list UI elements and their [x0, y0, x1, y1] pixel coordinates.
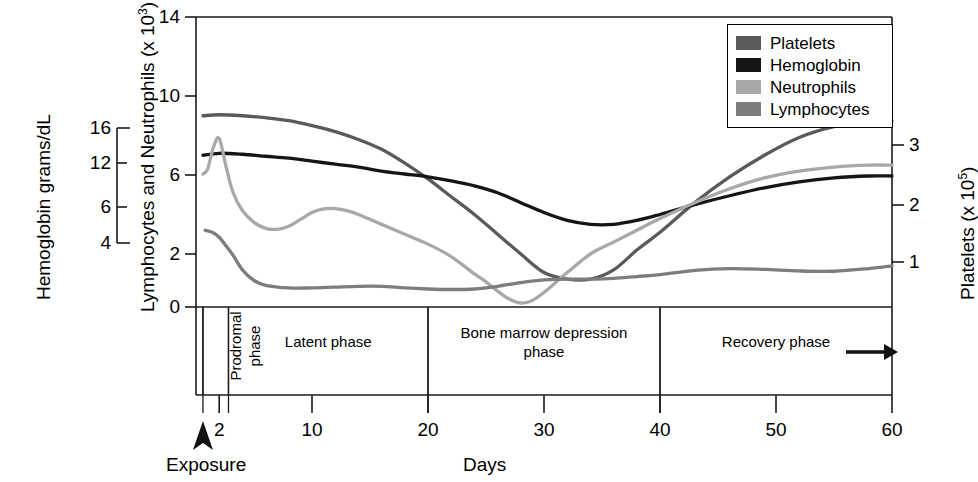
legend-swatch-platelets — [736, 36, 761, 50]
y2-tick-label-3: 3 — [909, 135, 920, 154]
legend-item-hemoglobin: Hemoglobin — [736, 54, 881, 76]
x-tick-label-30: 30 — [527, 420, 561, 439]
y2-tick-label-1: 1 — [909, 252, 920, 271]
x-tick-label-50: 50 — [759, 420, 793, 439]
y-tick-label-0: 0 — [146, 297, 180, 316]
x-tick-label-20: 20 — [411, 420, 445, 439]
y-tick-label-10: 10 — [146, 86, 180, 105]
legend-item-lymphocytes: Lymphocytes — [736, 98, 881, 120]
right-y-axis-title-close: ) — [957, 167, 978, 173]
phase-label-recovery-phase: Recovery phase — [691, 333, 861, 352]
legend-swatch-lymphocytes — [736, 102, 761, 116]
phase-label-bone-marrow-depression-phase: Bone marrow depression phase — [459, 324, 629, 362]
right-y-axis-exponent: 5 — [956, 173, 970, 180]
x-tick-label-10: 10 — [295, 420, 329, 439]
x-tick-label-40: 40 — [643, 420, 677, 439]
legend-item-neutrophils: Neutrophils — [736, 76, 881, 98]
legend-label-lymphocytes: Lymphocytes — [770, 101, 870, 118]
legend-swatch-neutrophils — [736, 80, 761, 94]
x-tick-label-2: 2 — [202, 420, 236, 439]
x-axis-title-text: Days — [463, 454, 506, 475]
y-tick-label-2: 2 — [146, 244, 180, 263]
legend-label-platelets: Platelets — [770, 35, 835, 52]
exposure-label-text: Exposure — [166, 454, 246, 475]
legend-swatch-hemoglobin — [736, 58, 761, 72]
primary-y-axis-title: Lymphocytes and Neutrophils (x 103) — [137, 2, 157, 312]
legend-label-neutrophils: Neutrophils — [770, 79, 856, 96]
secondary-y-axis-title: Hemoglobin grams/dL — [34, 114, 53, 300]
right-y-axis-title-text: Platelets (x 10 — [957, 180, 978, 300]
y3-tick-label-6: 6 — [77, 197, 111, 216]
x-axis-title: Days — [463, 455, 506, 474]
y3-tick-label-12: 12 — [77, 153, 111, 172]
phase-label-latent-phase: Latent phase — [243, 333, 413, 352]
data-curves — [203, 115, 892, 303]
primary-y-axis-title-text: Lymphocytes and Neutrophils (x 10 — [137, 15, 158, 312]
y-tick-label-6: 6 — [146, 165, 180, 184]
y3-tick-label-4: 4 — [77, 233, 111, 252]
legend-label-hemoglobin: Hemoglobin — [770, 57, 861, 74]
secondary-y-axis-title-text: Hemoglobin grams/dL — [33, 114, 54, 300]
legend-item-platelets: Platelets — [736, 32, 881, 54]
x-tick-label-60: 60 — [875, 420, 909, 439]
y2-tick-label-2: 2 — [909, 195, 920, 214]
right-y-axis-title: Platelets (x 105) — [957, 167, 977, 300]
legend: PlateletsHemoglobinNeutrophilsLymphocyte… — [727, 24, 893, 128]
y-tick-label-14: 14 — [146, 7, 180, 26]
exposure-label: Exposure — [166, 455, 246, 474]
y3-tick-label-16: 16 — [77, 118, 111, 137]
